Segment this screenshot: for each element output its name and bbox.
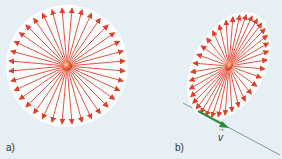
panel-b-moving-charge	[170, 0, 282, 155]
velocity-label: →v	[218, 132, 223, 143]
charge-icon	[62, 61, 72, 71]
panel-a-label: a)	[6, 142, 15, 153]
panel-b-label: b)	[175, 142, 184, 153]
panel-a-stationary-charge	[6, 5, 128, 127]
field-diagram	[0, 0, 282, 159]
